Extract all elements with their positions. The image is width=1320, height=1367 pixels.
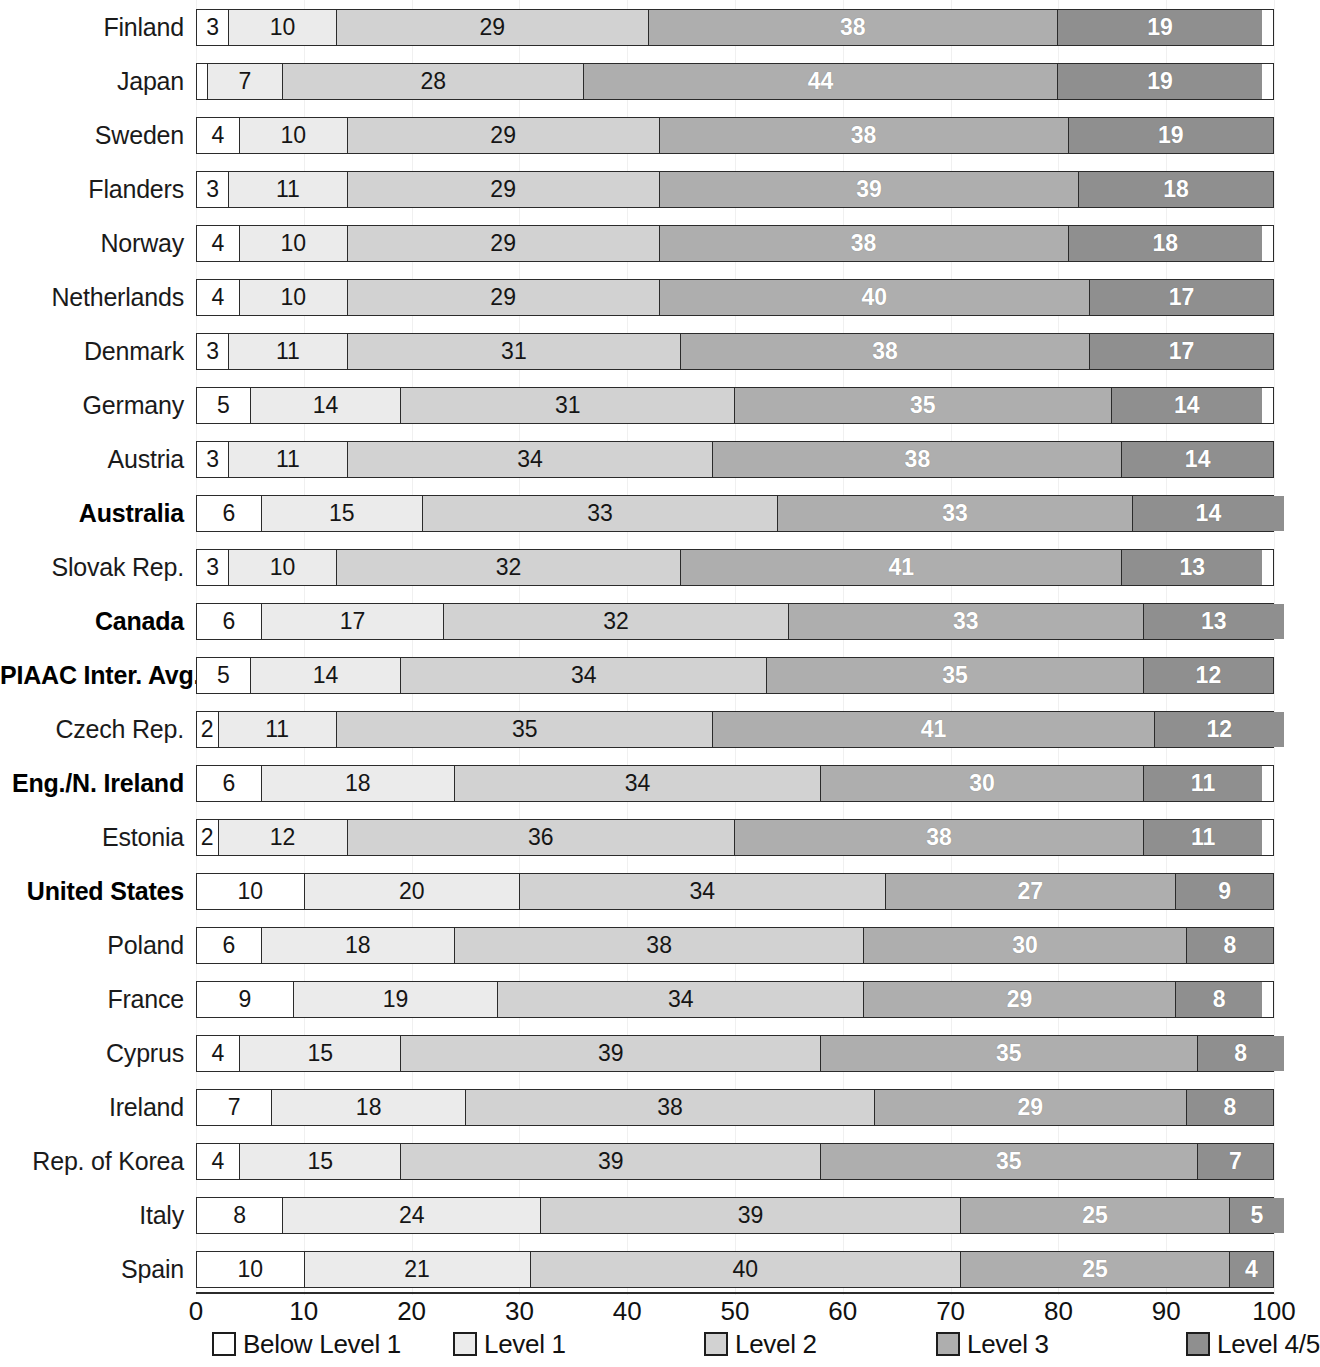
chart-legend: Below Level 1Level 1Level 2Level 3Level … <box>196 1330 1296 1366</box>
bar-segment-level-1: 10 <box>240 226 348 261</box>
segment-value: 36 <box>528 826 554 849</box>
bar-segment-level-3: 38 <box>735 820 1144 855</box>
bar-row: Slovak Rep.310324113 <box>0 540 1312 594</box>
bar-row: Spain102140254 <box>0 1242 1312 1296</box>
segment-value: 10 <box>270 16 296 39</box>
bar-row: France91934298 <box>0 972 1312 1026</box>
segment-value: 38 <box>840 16 866 39</box>
bar-row: Germany514313514 <box>0 378 1312 432</box>
segment-value: 29 <box>490 232 516 255</box>
stacked-bar: 311313817 <box>196 333 1274 370</box>
segment-value: 14 <box>1196 502 1222 525</box>
bar-segment-level-4: 11 <box>1144 820 1262 855</box>
segment-value: 14 <box>313 664 339 687</box>
segment-value: 8 <box>1213 988 1226 1011</box>
category-label: Spain <box>0 1255 196 1283</box>
bar-segment-level-1: 24 <box>283 1198 541 1233</box>
segment-value: 19 <box>1158 124 1184 147</box>
segment-value: 3 <box>206 448 219 471</box>
bar-segment-level-0: 10 <box>197 874 305 909</box>
bar-segment-level-3: 25 <box>961 1252 1230 1287</box>
bar-segment-level-4: 13 <box>1122 550 1262 585</box>
bar-segment-level-4: 14 <box>1112 388 1263 423</box>
category-label: Canada <box>0 607 196 635</box>
segment-value: 6 <box>222 772 235 795</box>
segment-value: 41 <box>888 556 914 579</box>
segment-value: 18 <box>1163 178 1189 201</box>
segment-value: 34 <box>571 664 597 687</box>
bar-row: Ireland71838298 <box>0 1080 1312 1134</box>
segment-value: 8 <box>1224 1096 1237 1119</box>
segment-value: 10 <box>281 286 307 309</box>
bar-segment-level-4: 7 <box>1198 1144 1273 1179</box>
segment-value: 33 <box>942 502 968 525</box>
segment-value: 10 <box>281 232 307 255</box>
axis-tick-label: 50 <box>721 1296 750 1326</box>
bar-segment-level-4: 14 <box>1122 442 1273 477</box>
stacked-bar: 410293819 <box>196 117 1274 154</box>
stacked-bar: 41539358 <box>196 1035 1274 1072</box>
bar-segment-level-3: 35 <box>821 1144 1198 1179</box>
bar-segment-level-2: 40 <box>531 1252 961 1287</box>
bar-segment-level-2: 39 <box>401 1036 821 1071</box>
bar-row: Australia615333314 <box>0 486 1312 540</box>
segment-value: 17 <box>1169 286 1195 309</box>
stacked-bar: 311343814 <box>196 441 1274 478</box>
segment-value: 11 <box>1191 826 1215 849</box>
axis-tick-label: 90 <box>1152 1296 1181 1326</box>
segment-value: 10 <box>238 880 264 903</box>
bar-segment-level-3: 41 <box>681 550 1122 585</box>
bar-segment-level-0: 8 <box>197 1198 283 1233</box>
bar-segment-level-4: 14 <box>1133 496 1284 531</box>
bar-segment-level-1: 15 <box>240 1144 401 1179</box>
legend-item[interactable]: Below Level 1 <box>212 1330 401 1358</box>
bar-segment-level-0: 3 <box>197 442 229 477</box>
bar-segment-level-4: 11 <box>1144 766 1262 801</box>
segment-value: 39 <box>598 1042 624 1065</box>
segment-value: 13 <box>1179 556 1205 579</box>
segment-value: 2 <box>201 718 214 741</box>
legend-item[interactable]: Level 1 <box>453 1330 566 1358</box>
bar-segment-level-1: 21 <box>305 1252 531 1287</box>
category-label: Germany <box>0 391 196 419</box>
bar-segment-level-0: 4 <box>197 280 240 315</box>
axis-tick-label: 70 <box>936 1296 965 1326</box>
bar-row: Estonia212363811 <box>0 810 1312 864</box>
legend-item[interactable]: Level 3 <box>936 1330 1049 1358</box>
legend-swatch-icon <box>212 1332 236 1356</box>
segment-value: 33 <box>587 502 613 525</box>
bar-segment-level-2: 29 <box>348 118 660 153</box>
axis-tick-label: 60 <box>828 1296 857 1326</box>
segment-value: 4 <box>212 232 225 255</box>
bar-segment-level-2: 29 <box>337 10 649 45</box>
category-label: Poland <box>0 931 196 959</box>
axis-tick-label: 100 <box>1252 1296 1295 1326</box>
category-label: France <box>0 985 196 1013</box>
bar-segment-level-1: 20 <box>305 874 520 909</box>
bar-segment-level-4: 8 <box>1187 928 1273 963</box>
axis-tick-label: 40 <box>613 1296 642 1326</box>
segment-value: 35 <box>910 394 936 417</box>
segment-value: 2 <box>201 826 214 849</box>
segment-value: 8 <box>1224 934 1237 957</box>
segment-value: 9 <box>1218 880 1231 903</box>
bar-segment-level-0: 5 <box>197 658 251 693</box>
bar-segment-level-3: 29 <box>864 982 1176 1017</box>
segment-value: 7 <box>228 1096 241 1119</box>
stacked-bar: 615333314 <box>196 495 1274 532</box>
segment-value: 11 <box>1191 772 1215 795</box>
segment-value: 12 <box>270 826 296 849</box>
segment-value: 5 <box>217 394 230 417</box>
bar-segment-level-3: 44 <box>584 64 1057 99</box>
segment-value: 17 <box>340 610 366 633</box>
segment-value: 14 <box>1185 448 1211 471</box>
bar-segment-level-2: 29 <box>348 226 660 261</box>
legend-item[interactable]: Level 2 <box>704 1330 817 1358</box>
legend-item[interactable]: Level 4/5 <box>1186 1330 1320 1358</box>
segment-value: 35 <box>942 664 968 687</box>
segment-value: 12 <box>1196 664 1222 687</box>
bar-segment-level-1: 11 <box>229 172 347 207</box>
legend-label: Level 2 <box>735 1330 817 1358</box>
bar-segment-level-0: 10 <box>197 1252 305 1287</box>
segment-value: 5 <box>217 664 230 687</box>
